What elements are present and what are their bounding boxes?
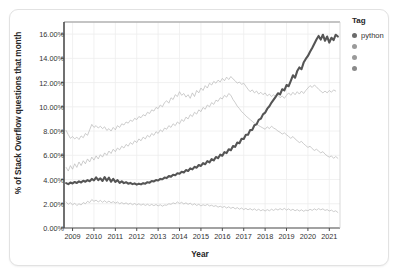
legend-title: Tag bbox=[352, 16, 398, 25]
legend-dot-icon bbox=[352, 66, 357, 71]
legend-entry-label: python bbox=[361, 31, 384, 40]
legend-entry[interactable] bbox=[352, 52, 398, 62]
legend-entry[interactable] bbox=[352, 41, 398, 51]
legend-dot-icon bbox=[352, 44, 357, 49]
legend-entry[interactable] bbox=[352, 63, 398, 73]
series-line-java bbox=[66, 93, 338, 171]
legend-dot-icon bbox=[352, 55, 357, 60]
chart-legend: Tag python bbox=[352, 16, 398, 74]
gridlines bbox=[64, 22, 340, 228]
series-line-csharp bbox=[66, 200, 338, 213]
chart-figure: % of Stack Overflow questions that month… bbox=[0, 0, 406, 279]
plot-area bbox=[0, 0, 406, 279]
legend-dot-icon bbox=[352, 33, 357, 38]
legend-entries: python bbox=[352, 30, 398, 73]
legend-entry[interactable]: python bbox=[352, 30, 398, 40]
